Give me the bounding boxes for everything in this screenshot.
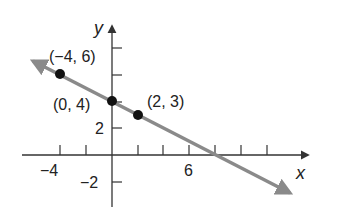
tick-label-y-neg2: −2 [80,174,98,191]
y-ticks [112,48,122,182]
point-label-0-4: (0, 4) [53,96,90,113]
tick-label-x-6: 6 [184,162,193,179]
point-neg4-6 [55,69,65,79]
point-0-4 [107,96,117,106]
line-graph [33,61,290,193]
tick-label-y-2: 2 [95,120,104,137]
point-2-3 [133,110,143,120]
tick-label-x-neg4: −4 [40,162,58,179]
x-axis-label: x [295,163,306,183]
x-ticks [60,145,267,155]
point-label-2-3: (2, 3) [147,93,184,110]
point-label-neg4-6: (−4, 6) [49,48,96,65]
y-axis-label: y [92,18,104,38]
coordinate-plane: y x −4 6 2 −2 (−4, 6) (0, 4) (2, 3) [0,0,338,214]
